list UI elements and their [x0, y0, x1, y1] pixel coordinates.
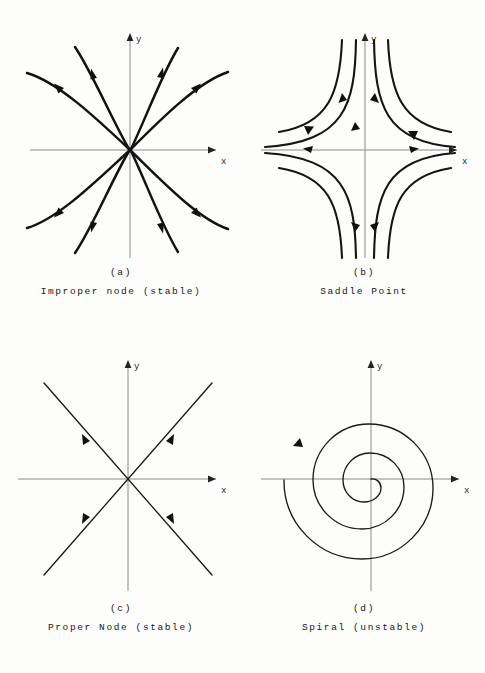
trajectory: [284, 424, 433, 559]
y-axis-label: y: [377, 362, 383, 372]
flow-arrow-icon: [166, 513, 174, 524]
trajectory: [27, 73, 129, 149]
y-axis-arrow-icon: [125, 360, 132, 368]
flow-arrow-icon: [157, 68, 164, 79]
flow-arrow-icon: [82, 513, 90, 524]
trajectory: [75, 151, 129, 253]
flow-arrow-icon: [351, 122, 360, 131]
axes-group: x y: [261, 360, 469, 591]
panel-title: Spiral (unstable): [243, 622, 485, 633]
flow-arrow-icon: [351, 222, 360, 232]
x-axis-label: x: [462, 157, 467, 167]
figure-page: x y: [0, 0, 485, 673]
trajectory: [131, 72, 228, 149]
plot-proper-node: x y: [0, 336, 242, 598]
trajectory: [388, 40, 451, 132]
flow-arrow-icon: [82, 434, 90, 445]
panel-title: Improper node (stable): [0, 286, 242, 297]
flow-arrow-icon: [370, 93, 379, 103]
panel-title: Proper Node (stable): [0, 622, 242, 633]
panel-title: Saddle Point: [243, 286, 485, 297]
y-axis-arrow-icon: [368, 360, 375, 368]
x-axis-arrow-icon: [208, 147, 216, 154]
x-axis-arrow-icon: [451, 476, 459, 483]
flow-arrow-icon: [293, 438, 303, 447]
trajectory: [27, 151, 129, 228]
y-axis-label: y: [136, 35, 142, 45]
flow-arrow-icon: [157, 223, 164, 234]
panel-label: (a): [0, 267, 242, 278]
panel-label: (c): [0, 603, 242, 614]
panel-label: (b): [243, 267, 485, 278]
panel-label: (d): [243, 603, 485, 614]
trajectory: [279, 168, 342, 258]
y-axis-arrow-icon: [127, 33, 134, 41]
plot-spiral: x y: [243, 336, 485, 598]
panel-improper-node: x y: [0, 0, 242, 336]
panel-proper-node: x y (c) Proper Node (stable): [0, 336, 242, 672]
trajectory: [388, 168, 451, 258]
trajectory: [131, 48, 178, 149]
trajectory: [279, 40, 342, 132]
flow-arrow-icon: [339, 93, 348, 103]
x-axis-label: x: [221, 157, 226, 167]
plot-improper-node: x y: [0, 0, 242, 262]
trajectory: [75, 47, 129, 149]
x-axis-label: x: [221, 486, 226, 496]
flow-arrow-icon: [91, 69, 98, 80]
panel-saddle-point: x y: [243, 0, 485, 336]
flow-arrow-icon: [166, 434, 174, 445]
x-axis-arrow-icon: [208, 476, 216, 483]
x-axis-label: x: [464, 486, 469, 496]
trajectory: [131, 151, 178, 252]
trajectory: [131, 151, 228, 229]
y-axis-arrow-icon: [362, 33, 369, 41]
panel-spiral: x y (d) Spiral (unstable): [243, 336, 485, 672]
trajectories-spiral: [284, 424, 433, 559]
y-axis-label: y: [134, 362, 140, 372]
plot-saddle-point: x y: [243, 0, 485, 262]
trajectories-saddle-point: [265, 40, 455, 258]
flow-arrow-icon: [370, 222, 379, 232]
flow-arrow-icon: [304, 126, 314, 135]
flow-arrow-icon: [91, 222, 98, 233]
